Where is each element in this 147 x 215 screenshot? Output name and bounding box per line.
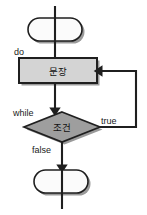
decision-label: 조건 [53,122,71,133]
edge-label-true: true [101,116,117,126]
edge-label-false: false [32,145,51,155]
flowchart-diagram: do 문장 while 조건 true false [0,0,147,215]
edge-label-do: do [14,47,24,57]
entry-terminal [28,18,85,44]
flowchart-canvas: do 문장 while 조건 true false [0,0,147,215]
edge-label-while: while [12,108,34,118]
process-statement: 문장 [19,58,100,86]
process-label: 문장 [49,66,67,77]
